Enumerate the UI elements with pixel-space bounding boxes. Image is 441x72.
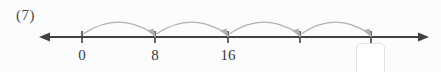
jump-arc-3 <box>301 22 368 34</box>
number-line-exercise: (7) 0816 <box>0 0 441 72</box>
tick-label-0: 0 <box>78 47 86 64</box>
axis-arrow-right-icon <box>418 33 429 42</box>
tick-label-8: 8 <box>151 47 159 64</box>
jump-arc-1 <box>156 22 225 34</box>
tick-label-16: 16 <box>221 47 236 64</box>
answer-input-box[interactable] <box>356 43 385 72</box>
axis-arrow-left-icon <box>39 33 50 42</box>
jump-arc-0 <box>83 22 152 34</box>
jump-arc-2 <box>229 22 297 34</box>
